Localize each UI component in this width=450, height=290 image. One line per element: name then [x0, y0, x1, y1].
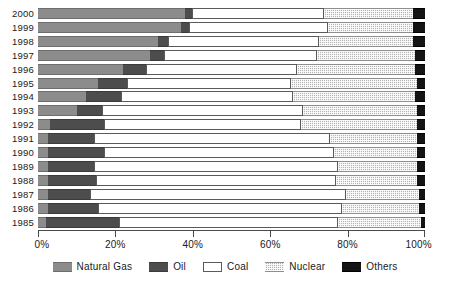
- bar-segment-natural-gas: [38, 36, 158, 47]
- y-axis-tick-label: 1987: [12, 189, 34, 200]
- stacked-bar[interactable]: [38, 119, 425, 130]
- bar-segment-oil: [150, 50, 164, 61]
- bar-row: 1992: [38, 119, 425, 130]
- bar-segment-natural-gas: [38, 64, 123, 75]
- bar-segment-oil: [48, 133, 94, 144]
- bar-segment-nuclear: [317, 50, 416, 61]
- x-axis-tick: [348, 231, 349, 237]
- bar-segment-oil: [48, 189, 91, 200]
- bar-segment-natural-gas: [38, 91, 86, 102]
- stacked-bar[interactable]: [38, 36, 425, 47]
- x-axis-tick: [193, 231, 194, 237]
- y-axis-tick-label: 1988: [12, 175, 34, 186]
- bar-segment-natural-gas: [38, 133, 48, 144]
- bar-segment-coal: [168, 36, 319, 47]
- bar-row: 1988: [38, 175, 425, 186]
- bar-segment-oil: [123, 64, 146, 75]
- nuclear-swatch: [265, 262, 284, 272]
- bar-segment-natural-gas: [38, 78, 98, 89]
- bar-segment-nuclear: [303, 105, 417, 116]
- stacked-bar[interactable]: [38, 175, 425, 186]
- legend-label: Others: [366, 261, 397, 273]
- y-axis-tick-label: 1989: [12, 161, 34, 172]
- bar-segment-oil: [48, 175, 96, 186]
- legend-item-nuclear[interactable]: Nuclear: [265, 261, 325, 273]
- bar-segment-coal: [127, 78, 291, 89]
- y-axis-tick-label: 2000: [12, 8, 34, 19]
- bar-segment-nuclear: [324, 8, 413, 19]
- bar-segment-natural-gas: [38, 8, 185, 19]
- bar-row: 1985: [38, 217, 425, 228]
- others-swatch: [342, 262, 361, 272]
- bar-segment-others: [417, 175, 425, 186]
- stacked-bar[interactable]: [38, 217, 425, 228]
- x-axis-tick-label: 80%: [337, 239, 358, 251]
- bar-segment-others: [421, 217, 425, 228]
- stacked-bar[interactable]: [38, 161, 425, 172]
- y-axis-tick-label: 1996: [12, 64, 34, 75]
- coal-swatch: [203, 262, 222, 272]
- stacked-bar[interactable]: [38, 105, 425, 116]
- legend-item-others[interactable]: Others: [342, 261, 397, 273]
- y-axis-tick-label: 1993: [12, 105, 34, 116]
- bar-segment-coal: [104, 119, 301, 130]
- bar-segment-coal: [90, 189, 345, 200]
- bar-row: 2000: [38, 8, 425, 19]
- stacked-bar[interactable]: [38, 64, 425, 75]
- bar-segment-natural-gas: [38, 119, 50, 130]
- stacked-bar[interactable]: [38, 8, 425, 19]
- bar-segment-others: [417, 78, 425, 89]
- bar-segment-others: [417, 119, 425, 130]
- legend-item-coal[interactable]: Coal: [203, 261, 248, 273]
- bar-segment-others: [415, 91, 425, 102]
- bar-segment-nuclear: [338, 217, 421, 228]
- bar-segment-natural-gas: [38, 105, 77, 116]
- y-axis-tick-label: 1995: [12, 78, 34, 89]
- y-axis-tick-label: 1992: [12, 119, 34, 130]
- bar-segment-others: [417, 161, 425, 172]
- y-axis-tick-label: 1998: [12, 36, 34, 47]
- bar-segment-oil: [46, 217, 120, 228]
- bar-segment-oil: [48, 147, 104, 158]
- legend-item-oil[interactable]: Oil: [149, 261, 186, 273]
- bar-segment-nuclear: [301, 119, 417, 130]
- y-axis-tick-label: 1991: [12, 133, 34, 144]
- x-axis-tick-label: 0%: [34, 239, 49, 251]
- bar-segment-others: [413, 8, 425, 19]
- stacked-bar[interactable]: [38, 203, 425, 214]
- bar-segment-natural-gas: [38, 22, 181, 33]
- x-axis-tick-label: 100%: [405, 239, 431, 251]
- bar-segment-natural-gas: [38, 217, 46, 228]
- stacked-bar[interactable]: [38, 78, 425, 89]
- y-axis-tick-label: 1990: [12, 147, 34, 158]
- plot-area: 2000199919981997199619951994199319921991…: [38, 8, 425, 230]
- stacked-bar[interactable]: [38, 22, 425, 33]
- legend-label: Oil: [173, 261, 186, 273]
- chart-legend: Natural GasOilCoalNuclearOthers: [0, 258, 450, 276]
- stacked-bar[interactable]: [38, 189, 425, 200]
- bar-segment-oil: [98, 78, 127, 89]
- bar-row: 1999: [38, 22, 425, 33]
- stacked-bar[interactable]: [38, 147, 425, 158]
- bar-segment-natural-gas: [38, 203, 48, 214]
- bar-segment-oil: [77, 105, 102, 116]
- bar-segment-nuclear: [291, 78, 417, 89]
- bar-segment-natural-gas: [38, 189, 48, 200]
- stacked-bar[interactable]: [38, 50, 425, 61]
- stacked-bar[interactable]: [38, 133, 425, 144]
- bar-segment-oil: [86, 91, 121, 102]
- bar-segment-coal: [98, 203, 342, 214]
- bar-segment-others: [413, 36, 425, 47]
- legend-label: Coal: [227, 261, 248, 273]
- bar-segment-natural-gas: [38, 175, 48, 186]
- legend-item-natural-gas[interactable]: Natural Gas: [53, 261, 133, 273]
- bar-segment-coal: [192, 8, 324, 19]
- bar-row: 1990: [38, 147, 425, 158]
- y-axis-tick-label: 1997: [12, 50, 34, 61]
- bar-segment-nuclear: [330, 133, 417, 144]
- stacked-bar[interactable]: [38, 91, 425, 102]
- x-axis-tick: [38, 231, 39, 237]
- legend-label: Nuclear: [289, 261, 325, 273]
- bar-segment-natural-gas: [38, 161, 48, 172]
- bar-segment-others: [415, 64, 425, 75]
